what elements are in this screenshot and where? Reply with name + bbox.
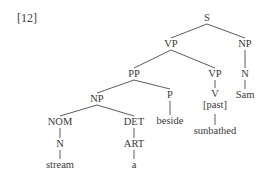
tree-node-sam: Sam xyxy=(236,89,255,100)
tree-nodes: SVPNPPPVPNNPPVSam[past]NOMDETbesidesunba… xyxy=(46,12,254,170)
tree-node-v: V xyxy=(211,88,219,99)
tree-edge-vp1-pp xyxy=(134,50,171,68)
tree-edge-s-np1 xyxy=(207,24,245,38)
tree-edge-np2-det xyxy=(97,105,134,116)
example-number: [12] xyxy=(17,11,37,25)
tree-node-past: [past] xyxy=(203,99,227,110)
tree-edge-np2-nom xyxy=(60,105,97,116)
tree-node-np2: NP xyxy=(90,93,104,104)
tree-node-n1: N xyxy=(241,68,249,79)
tree-node-pp: PP xyxy=(128,68,140,79)
tree-node-s: S xyxy=(204,12,210,23)
tree-node-art: ART xyxy=(124,138,145,149)
tree-edge-s-vp1 xyxy=(171,24,207,38)
tree-edge-pp-np2 xyxy=(97,80,134,93)
tree-node-nom: NOM xyxy=(48,116,73,127)
tree-edge-pp-p xyxy=(134,80,170,89)
tree-node-np1: NP xyxy=(238,38,252,49)
tree-node-a: a xyxy=(132,159,137,170)
tree-node-vp1: VP xyxy=(164,38,178,49)
tree-node-p: P xyxy=(167,89,173,100)
tree-node-det: DET xyxy=(124,116,145,127)
syntax-tree-diagram: [12] SVPNPPPVPNNPPVSam[past]NOMDETbeside… xyxy=(0,0,268,174)
tree-node-vp2: VP xyxy=(208,68,222,79)
tree-node-sunbathed: sunbathed xyxy=(194,125,237,136)
tree-edge-vp1-vp2 xyxy=(171,50,215,68)
tree-node-stream: stream xyxy=(46,159,74,170)
tree-node-n2: N xyxy=(56,138,64,149)
tree-node-beside: beside xyxy=(157,115,184,126)
